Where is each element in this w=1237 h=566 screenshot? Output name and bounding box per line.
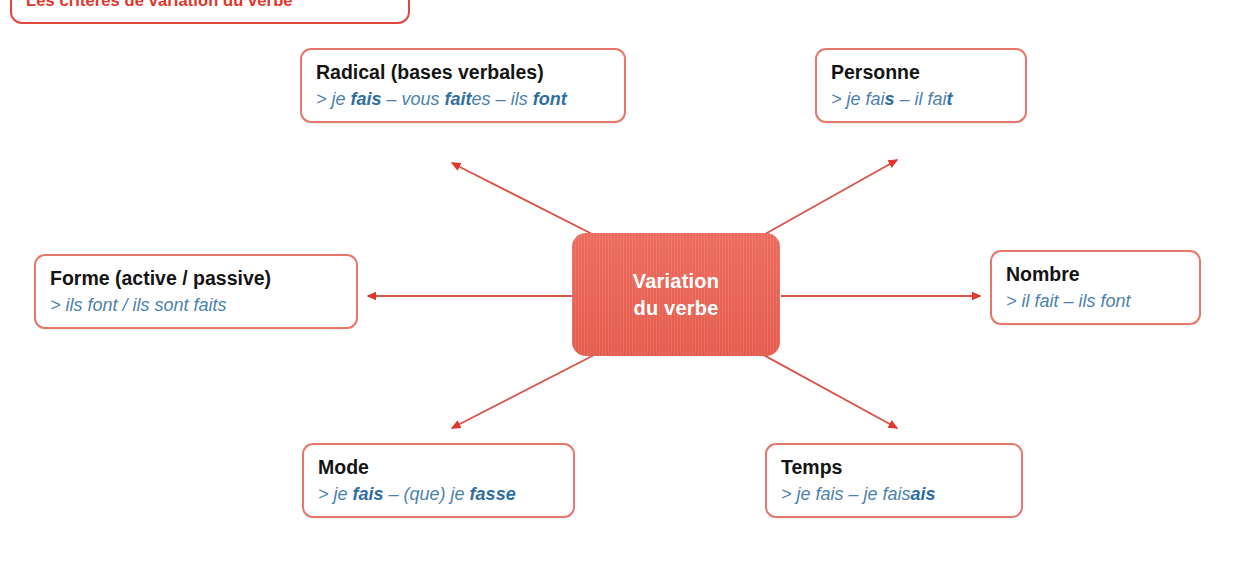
node-mode: Mode > je fais – (que) je fasse [302, 443, 575, 518]
node-temps: Temps > je fais – je faisais [765, 443, 1023, 518]
node-forme-example: > ils font / ils sont faits [50, 294, 342, 317]
node-nombre-title: Nombre [1006, 263, 1185, 287]
diagram-canvas: Les critères de variation du verbe Varia… [0, 0, 1237, 566]
arrow-to-personne [758, 160, 897, 238]
node-radical-example: > je fais – vous faites – ils font [316, 88, 610, 111]
node-nombre: Nombre > il fait – ils font [990, 250, 1201, 325]
central-node-line-1: Variation [633, 268, 719, 295]
node-forme: Forme (active / passive) > ils font / il… [34, 254, 358, 329]
node-nombre-example: > il fait – ils font [1006, 290, 1185, 313]
arrow-to-radical [452, 163, 600, 238]
node-mode-example: > je fais – (que) je fasse [318, 483, 559, 506]
node-radical-title: Radical (bases verbales) [316, 61, 610, 85]
page-title: Les critères de variation du verbe [26, 0, 293, 10]
node-personne-example: > je fais – il fait [831, 88, 1011, 111]
central-node-variation-du-verbe: Variation du verbe [572, 233, 780, 356]
node-personne-title: Personne [831, 61, 1011, 85]
node-temps-example: > je fais – je faisais [781, 483, 1007, 506]
diagram-title-banner: Les critères de variation du verbe [10, 0, 410, 24]
central-node-line-2: du verbe [634, 295, 719, 322]
node-forme-title: Forme (active / passive) [50, 267, 342, 291]
node-temps-title: Temps [781, 456, 1007, 480]
arrow-to-mode [452, 352, 600, 428]
node-mode-title: Mode [318, 456, 559, 480]
node-personne: Personne > je fais – il fait [815, 48, 1027, 123]
arrow-to-temps [758, 352, 897, 428]
node-radical: Radical (bases verbales) > je fais – vou… [300, 48, 626, 123]
